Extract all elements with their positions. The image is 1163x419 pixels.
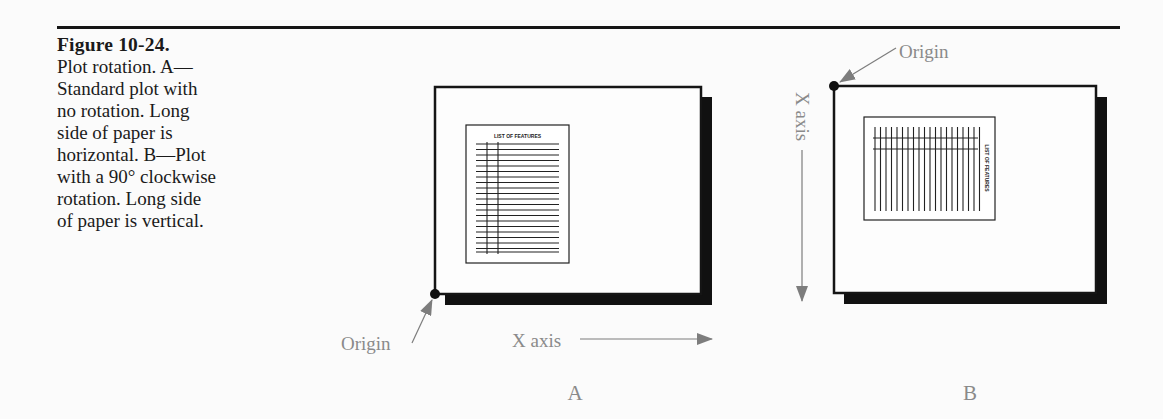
document-title: LIST OF FEATURES bbox=[984, 144, 990, 192]
plot-rotation-diagram: LIST OF FEATURES bbox=[0, 0, 1163, 419]
panel-b: LIST OF FEATURES Origin X axis B bbox=[792, 41, 1107, 405]
list-of-features-document: LIST OF FEATURES bbox=[466, 125, 569, 263]
x-axis-label: X axis bbox=[512, 330, 561, 351]
origin-point bbox=[829, 81, 839, 91]
origin-point bbox=[430, 289, 440, 299]
origin-label: Origin bbox=[341, 333, 391, 354]
panel-label: B bbox=[963, 381, 977, 405]
document-title: LIST OF FEATURES bbox=[494, 133, 542, 139]
origin-label: Origin bbox=[899, 41, 949, 62]
panel-a: LIST OF FEATURES bbox=[341, 87, 712, 405]
panel-label: A bbox=[567, 381, 583, 405]
list-of-features-document-rotated: LIST OF FEATURES bbox=[864, 117, 995, 220]
origin-arrow-icon bbox=[412, 300, 432, 343]
origin-arrow-icon bbox=[840, 48, 896, 82]
x-axis-label: X axis bbox=[792, 92, 813, 141]
